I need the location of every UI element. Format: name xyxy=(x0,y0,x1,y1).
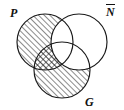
set-label-g: G xyxy=(85,96,94,108)
set-label-p: P xyxy=(10,7,17,19)
set-label-n-bar: N xyxy=(106,4,115,18)
venn-diagram-figure: P N G xyxy=(0,0,124,110)
set-label-n-bar-text: N xyxy=(106,5,115,19)
